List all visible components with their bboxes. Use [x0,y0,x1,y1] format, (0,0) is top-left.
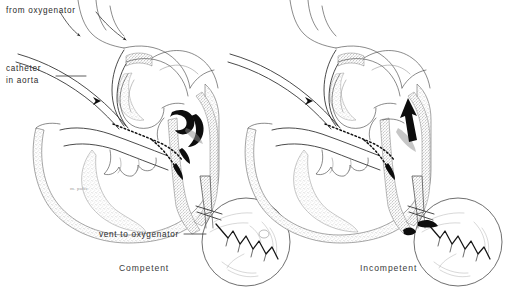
artist-signature: m. pulis [70,186,88,191]
label-catheter-line2: in aorta [6,76,39,85]
caption-incompetent: Incompetent [360,263,417,273]
label-vent-to-oxygenator: vent to oxygenator [99,230,179,239]
caption-competent: Competent [119,263,169,273]
illustration-canvas: from oxygenator catheter in aorta vent t… [0,0,517,297]
label-from-oxygenator: from oxygenator [6,6,76,15]
label-catheter-line1: catheter [6,64,41,73]
medical-illustration-figure: from oxygenator catheter in aorta vent t… [0,0,517,297]
